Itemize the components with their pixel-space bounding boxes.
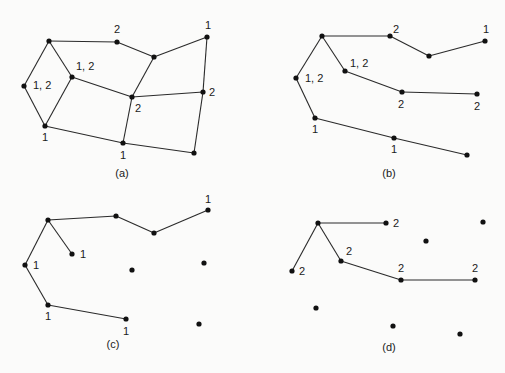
edge-I-J <box>48 305 126 319</box>
edge-E-I <box>296 78 315 118</box>
edge-E-I <box>24 86 45 126</box>
figure-canvas: 211, 21, 22211(a)211, 21, 22211(b)11111(… <box>0 0 505 373</box>
node-label: 2 <box>472 262 478 274</box>
edge-A-F <box>49 41 72 77</box>
panel-caption: (c) <box>107 338 120 350</box>
node-K <box>196 321 201 326</box>
node-label: 1 <box>80 248 86 260</box>
edge-C-D <box>154 37 207 57</box>
node-J <box>120 140 125 145</box>
edge-B-C <box>116 216 154 233</box>
node-K <box>464 152 469 157</box>
node-A <box>315 220 320 225</box>
node-label: 2 <box>393 23 399 35</box>
node-label: 1, 2 <box>76 60 94 72</box>
edge-F-G <box>345 71 402 92</box>
panel-b: 211, 21, 22211(b) <box>293 23 489 179</box>
node-D <box>205 207 210 212</box>
node-E <box>21 83 26 88</box>
node-B <box>387 33 392 38</box>
edge-I-J <box>45 126 123 143</box>
panel-caption: (b) <box>382 167 395 179</box>
node-C <box>423 238 428 243</box>
panel-d: 22222(d) <box>289 217 485 353</box>
node-H <box>201 260 206 265</box>
node-H <box>200 89 205 94</box>
edge-G-H <box>132 92 203 97</box>
edge-A-B <box>48 216 116 220</box>
edge-G-J <box>123 97 132 143</box>
node-label: 2 <box>346 245 352 257</box>
node-B <box>383 220 388 225</box>
node-label: 1 <box>205 19 211 31</box>
edge-J-K <box>123 143 194 153</box>
edge-F-G <box>341 261 401 280</box>
node-K <box>191 150 196 155</box>
panel-a: 211, 21, 22211(a) <box>21 19 215 179</box>
node-label: 2 <box>209 86 215 98</box>
node-label: 1 <box>391 143 397 155</box>
node-E <box>289 268 294 273</box>
edge-E-I <box>25 265 48 305</box>
node-label: 1 <box>483 23 489 35</box>
edge-D-H <box>203 37 207 92</box>
node-F <box>338 258 343 263</box>
node-label: 2 <box>114 23 120 35</box>
node-F <box>69 74 74 79</box>
node-label: 2 <box>299 265 305 277</box>
panel-caption: (d) <box>382 341 395 353</box>
edge-A-F <box>322 36 345 71</box>
node-label: 2 <box>398 98 404 110</box>
node-label: 1 <box>33 259 39 271</box>
node-D <box>480 219 485 224</box>
node-B <box>113 213 118 218</box>
node-G <box>129 94 134 99</box>
node-C <box>151 54 156 59</box>
edge-H-K <box>194 92 203 153</box>
node-label: 1 <box>120 149 126 161</box>
edge-C-G <box>132 57 154 97</box>
node-G <box>398 277 403 282</box>
edge-B-C <box>390 36 429 56</box>
node-G <box>399 89 404 94</box>
edge-A-F <box>48 220 72 254</box>
node-C <box>426 53 431 58</box>
node-J <box>123 316 128 321</box>
node-label: 1, 2 <box>305 72 323 84</box>
node-E <box>293 75 298 80</box>
node-I <box>45 302 50 307</box>
node-D <box>482 38 487 43</box>
node-A <box>46 38 51 43</box>
edge-A-E <box>292 223 318 271</box>
node-label: 1 <box>42 131 48 143</box>
panel-c: 11111(c) <box>22 193 211 350</box>
node-label: 2 <box>393 217 399 229</box>
edge-A-F <box>318 223 341 261</box>
node-F <box>69 251 74 256</box>
edge-B-C <box>117 42 154 57</box>
node-H <box>472 277 477 282</box>
edge-C-D <box>154 210 208 233</box>
node-G <box>129 267 134 272</box>
node-I <box>313 305 318 310</box>
node-E <box>22 262 27 267</box>
node-B <box>114 39 119 44</box>
edge-G-H <box>402 92 477 94</box>
node-I <box>312 115 317 120</box>
node-I <box>42 123 47 128</box>
node-A <box>45 217 50 222</box>
node-label: 1, 2 <box>350 57 368 69</box>
node-D <box>204 34 209 39</box>
node-label: 2 <box>135 102 141 114</box>
node-label: 1 <box>205 193 211 205</box>
node-label: 1 <box>312 123 318 135</box>
node-label: 2 <box>474 100 480 112</box>
edge-I-J <box>315 118 394 138</box>
node-J <box>391 135 396 140</box>
edge-C-D <box>429 41 485 56</box>
edge-J-K <box>394 138 467 155</box>
node-label: 2 <box>398 262 404 274</box>
panel-caption: (a) <box>115 167 128 179</box>
node-K <box>457 331 462 336</box>
node-H <box>474 91 479 96</box>
